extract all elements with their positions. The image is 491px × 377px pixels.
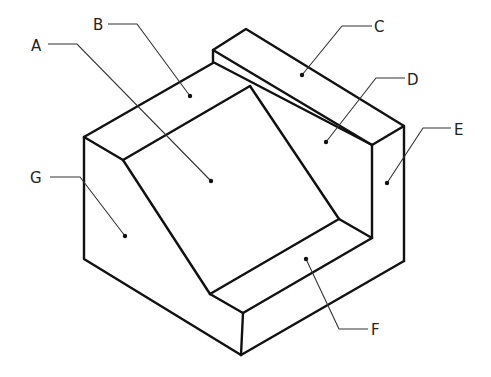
leader-line — [50, 177, 125, 236]
label-E: E — [454, 121, 463, 139]
leader-dot — [300, 73, 304, 77]
leader-dot — [324, 140, 328, 144]
label-C: C — [374, 18, 384, 36]
leader-line — [387, 128, 451, 183]
leader-line — [302, 26, 372, 75]
leader-line — [306, 259, 368, 329]
callout-A: A — [31, 37, 213, 183]
leader-dot — [123, 234, 127, 238]
label-B: B — [93, 16, 103, 34]
callout-B: B — [93, 16, 192, 98]
isometric-drawing: A B C D E F G — [0, 0, 491, 377]
callout-G: G — [30, 169, 127, 238]
label-D: D — [407, 71, 419, 89]
leader-line — [48, 44, 211, 181]
part-drawing-canvas: A B C D E F G — [0, 0, 491, 377]
label-G: G — [30, 169, 42, 187]
leader-dot — [304, 257, 308, 261]
leader-dot — [385, 181, 389, 185]
label-F: F — [371, 321, 380, 339]
leader-dot — [188, 94, 192, 98]
label-A: A — [31, 37, 42, 55]
part-outline — [84, 29, 404, 355]
leader-line — [108, 24, 190, 96]
callout-C: C — [300, 18, 385, 77]
leader-dot — [209, 179, 213, 183]
